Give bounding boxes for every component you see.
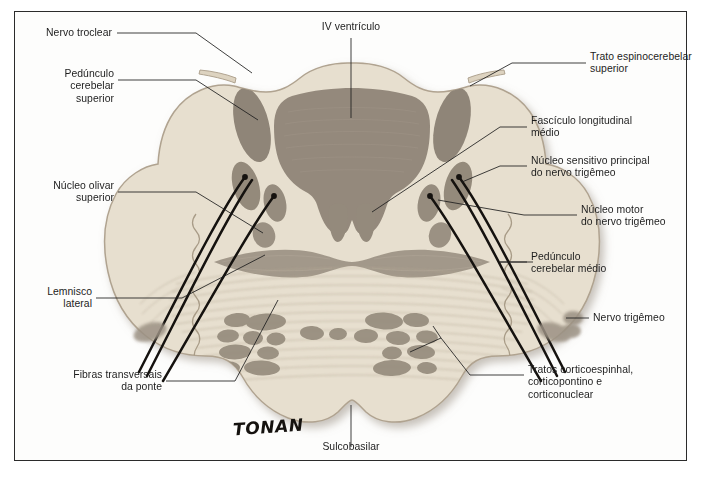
label-trato-espinocerebelar-superior: Trato espinocerebelar superior: [590, 51, 696, 76]
label-pedunculo-cerebelar-superior: Pedúnculo cerebelar superior: [10, 68, 114, 105]
label-nervo-troclear: Nervo troclear: [10, 27, 112, 39]
label-fibras-transversais-da-ponte: Fibras transversais da ponte: [36, 369, 162, 394]
label-iv-ventriculo: IV ventrículo: [291, 21, 411, 33]
label-sulcobasilar: Sulcobasilar: [291, 441, 411, 453]
label-lemnisco-lateral: Lemnisco lateral: [4, 286, 92, 311]
label-nervo-trigemeo: Nervo trigêmeo: [593, 312, 697, 324]
label-nucleo-sensitivo-principal: Núcleo sensitivo principal do nervo trig…: [531, 155, 697, 180]
anatomical-figure: Nervo troclear Pedúnculo cerebelar super…: [0, 0, 701, 480]
label-fasciculo-longitudinal-medio: Fascículo longitudinal médio: [531, 115, 691, 140]
label-nucleo-olivar-superior: Núcleo olivar superior: [10, 180, 114, 205]
label-tratos-corticoespinhal: Tratos corticoespinhal, corticopontino e…: [528, 364, 688, 401]
label-nucleo-motor: Núcleo motor do nervo trigêmeo: [581, 204, 693, 229]
label-pedunculo-cerebelar-medio: Pedúnculo cerebelar médio: [531, 251, 651, 276]
